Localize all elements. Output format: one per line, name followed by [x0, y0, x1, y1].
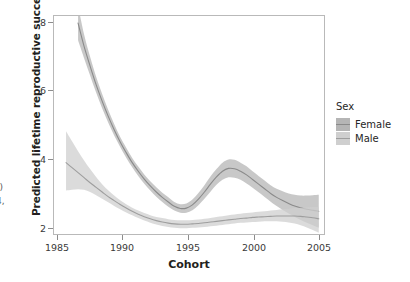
x-tick-mark-1985: [57, 235, 58, 240]
y-axis-title: Predicted lifetime reproductive success: [30, 16, 42, 216]
y-tick-label-2: 2: [30, 223, 46, 234]
left-edge-text-fragment-1: )): [0, 182, 8, 192]
x-tick-mark-1990: [122, 235, 123, 240]
plot-area: [54, 16, 325, 235]
confidence-ribbon-male: [66, 131, 319, 233]
y-tick-label-8: 8: [30, 17, 46, 28]
x-tick-label-2005: 2005: [299, 242, 339, 253]
trend-line-female: [78, 23, 319, 211]
x-tick-label-1990: 1990: [102, 242, 142, 253]
legend-label-male: Male: [355, 133, 379, 144]
legend: Sex Female Male: [336, 101, 408, 145]
x-tick-mark-2005: [319, 235, 320, 240]
chart-figure: )) 4, Predicted lifetime reproductive su…: [0, 0, 410, 282]
y-tick-label-6: 6: [30, 85, 46, 96]
x-axis-title: Cohort: [53, 258, 325, 271]
plot-panel: [53, 15, 325, 235]
x-tick-label-1985: 1985: [37, 242, 77, 253]
legend-item-female[interactable]: Female: [336, 117, 408, 131]
x-tick-mark-1995: [188, 235, 189, 240]
series-layer: [66, 16, 319, 233]
legend-item-male[interactable]: Male: [336, 131, 408, 145]
x-tick-label-2000: 2000: [234, 242, 274, 253]
legend-label-female: Female: [355, 119, 391, 130]
x-tick-mark-2000: [254, 235, 255, 240]
left-edge-text-fragment-2: 4,: [0, 196, 8, 206]
legend-swatch-female: [336, 118, 350, 131]
y-tick-label-4: 4: [30, 154, 46, 165]
x-tick-label-1995: 1995: [168, 242, 208, 253]
legend-swatch-male: [336, 132, 350, 145]
legend-title: Sex: [336, 101, 408, 112]
